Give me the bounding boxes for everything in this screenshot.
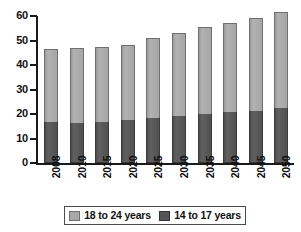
x-axis-tick-label-text: 2025	[153, 156, 164, 179]
bar-stack-inner	[198, 27, 212, 163]
stacked-bar-chart: 0102030405060 20082010201520202025203020…	[0, 0, 301, 232]
plot-area	[36, 14, 294, 163]
bar-stack-inner	[70, 48, 84, 163]
x-axis-tick-label-text: 2045	[256, 156, 267, 179]
bar-stack-inner	[44, 49, 58, 163]
bar-stack-inner	[274, 12, 288, 163]
x-axis-tick-label: 2010	[70, 165, 84, 203]
legend-label: 14 to 17 years	[174, 210, 241, 221]
y-axis-tick-label: 30	[4, 84, 28, 95]
bar-stack-inner	[249, 18, 263, 163]
bar-segment-18-to-24-years	[146, 38, 160, 118]
y-axis-tick-labels: 0102030405060	[0, 0, 28, 232]
dark-gray-swatch-icon	[159, 211, 170, 221]
bar-segment-18-to-24-years	[44, 49, 58, 122]
bar-stack-inner	[95, 47, 109, 163]
x-axis-tick-label-text: 2020	[128, 156, 139, 179]
x-axis-tick-label: 2015	[95, 165, 109, 203]
y-axis-tick-label: 40	[4, 59, 28, 70]
bar-stack-inner	[172, 33, 186, 163]
y-axis-tick-label: 50	[4, 35, 28, 46]
legend-label: 18 to 24 years	[84, 210, 151, 221]
bar-segment-18-to-24-years	[70, 48, 84, 123]
bar-stack-inner	[223, 23, 237, 163]
y-axis-tick-label: 0	[4, 157, 28, 168]
x-axis-tick-label-text: 2050	[281, 156, 292, 179]
x-axis-tick-label: 2008	[44, 165, 58, 203]
legend-item-18-to-24-years: 18 to 24 years	[69, 210, 151, 221]
x-axis-tick-label: 2020	[121, 165, 135, 203]
chart-legend: 18 to 24 years 14 to 17 years	[64, 206, 246, 225]
bar-segment-18-to-24-years	[223, 23, 237, 112]
bar-segment-18-to-24-years	[172, 33, 186, 116]
bar-segment-18-to-24-years	[274, 12, 288, 108]
x-axis-tick-label-text: 2015	[102, 156, 113, 179]
x-axis-tick-label-text: 2030	[179, 156, 190, 179]
x-axis-tick-label-text: 2010	[77, 156, 88, 179]
x-axis-tick-label: 2030	[172, 165, 186, 203]
x-axis-tick-label-text: 2008	[51, 156, 62, 179]
x-axis-tick-label-text: 2040	[230, 156, 241, 179]
x-axis-tick-labels: 2008201020152020202520302035204020452050	[36, 165, 294, 205]
bar-segment-18-to-24-years	[198, 27, 212, 115]
x-axis-tick-label-text: 2035	[205, 156, 216, 179]
x-axis-tick-label: 2040	[223, 165, 237, 203]
bar-stack-inner	[146, 38, 160, 163]
x-axis-tick-label: 2045	[249, 165, 263, 203]
bar-segment-18-to-24-years	[121, 45, 135, 120]
light-gray-swatch-icon	[69, 211, 80, 221]
x-axis-tick-label: 2025	[146, 165, 160, 203]
bar-segment-18-to-24-years	[249, 18, 263, 111]
x-axis-tick-label: 2035	[198, 165, 212, 203]
legend-item-14-to-17-years: 14 to 17 years	[159, 210, 241, 221]
bar-segment-18-to-24-years	[95, 47, 109, 122]
bar-stack-inner	[121, 45, 135, 163]
y-axis-tick-label: 10	[4, 133, 28, 144]
x-axis-tick-label: 2050	[274, 165, 288, 203]
y-axis-tick-label: 20	[4, 108, 28, 119]
y-axis-tick-label: 60	[4, 10, 28, 21]
